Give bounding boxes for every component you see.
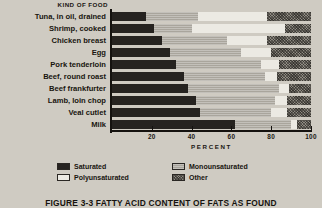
bar-segment-other <box>285 24 311 33</box>
bar-segment-other <box>267 12 311 21</box>
bar-row <box>112 83 311 95</box>
legend-swatch-other <box>172 174 185 181</box>
legend-swatch-monounsaturated <box>172 163 185 170</box>
x-axis-tick <box>152 126 153 132</box>
x-axis-tick <box>271 126 272 132</box>
bar-row <box>112 23 311 35</box>
bar-segment-sat <box>112 36 162 45</box>
x-axis-tick-label: 100 <box>305 133 317 140</box>
x-axis-tick-label: 60 <box>228 133 236 140</box>
bar-segment-poly <box>271 108 287 117</box>
bar-segment-mono <box>184 72 266 81</box>
legend-swatch-saturated <box>57 163 70 170</box>
legend-label: Polyunsaturated <box>74 174 129 181</box>
legend-label: Monounsaturated <box>189 163 248 170</box>
bar-segment-sat <box>112 108 200 117</box>
bar-group <box>112 11 311 131</box>
category-label: Tuna, in oil, drained <box>0 11 106 23</box>
plot-area <box>112 11 311 131</box>
bar-segment-sat <box>112 120 235 129</box>
bar-row <box>112 71 311 83</box>
category-label: Beef frankfurter <box>0 83 106 95</box>
bar-segment-poly <box>192 24 286 33</box>
bar-segment-sat <box>112 96 196 105</box>
legend-item-polyunsaturated: Polyunsaturated <box>57 174 172 181</box>
legend: SaturatedMonounsaturatedPolyunsaturatedO… <box>57 161 287 183</box>
legend-label: Saturated <box>74 163 106 170</box>
bar-segment-mono <box>235 120 291 129</box>
bar-segment-other <box>277 72 311 81</box>
legend-item-monounsaturated: Monounsaturated <box>172 163 287 170</box>
bar-row <box>112 107 311 119</box>
category-label: Egg <box>0 47 106 59</box>
x-axis-title: PERCENT <box>112 143 311 150</box>
bar-segment-other <box>287 96 311 105</box>
category-label: Lamb, loin chop <box>0 95 106 107</box>
x-axis-tick <box>231 126 232 132</box>
bar-segment-sat <box>112 12 146 21</box>
category-label: Pork tenderloin <box>0 59 106 71</box>
bar-segment-other <box>297 120 311 129</box>
bar-segment-sat <box>112 60 176 69</box>
legend-row: SaturatedMonounsaturated <box>57 161 287 172</box>
bar-segment-other <box>289 84 311 93</box>
bar-segment-mono <box>170 48 242 57</box>
bar-segment-sat <box>112 48 170 57</box>
bar-segment-poly <box>261 60 279 69</box>
bar-row <box>112 11 311 23</box>
bar-segment-sat <box>112 24 154 33</box>
bar-segment-mono <box>196 96 276 105</box>
bar-row <box>112 95 311 107</box>
bar-segment-mono <box>188 84 280 93</box>
legend-item-other: Other <box>172 174 287 181</box>
bar-segment-mono <box>162 36 228 45</box>
bar-segment-mono <box>154 24 192 33</box>
bar-segment-mono <box>176 60 262 69</box>
x-axis-tick <box>311 126 312 132</box>
bar-segment-poly <box>241 48 271 57</box>
x-axis-tick-label: 40 <box>188 133 196 140</box>
category-label: Veal cutlet <box>0 107 106 119</box>
category-labels: Tuna, in oil, drainedShrimp, cookedChick… <box>0 11 106 131</box>
figure-caption: FIGURE 3-3 FATTY ACID CONTENT OF FATS AS… <box>0 198 322 208</box>
legend-row: PolyunsaturatedOther <box>57 172 287 183</box>
x-axis-tick-label: 20 <box>148 133 156 140</box>
category-label: Chicken breast <box>0 35 106 47</box>
bar-segment-poly <box>198 12 268 21</box>
bar-segment-other <box>267 36 311 45</box>
category-label: Beef, round roast <box>0 71 106 83</box>
bar-segment-mono <box>200 108 272 117</box>
bar-segment-other <box>287 108 311 117</box>
x-axis-tick-label: 80 <box>267 133 275 140</box>
bar-row <box>112 35 311 47</box>
bar-segment-other <box>271 48 311 57</box>
bar-segment-mono <box>146 12 198 21</box>
bar-segment-sat <box>112 72 184 81</box>
bar-segment-poly <box>265 72 277 81</box>
legend-item-saturated: Saturated <box>57 163 172 170</box>
bar-segment-poly <box>279 84 289 93</box>
bar-segment-poly <box>227 36 267 45</box>
figure-fatty-acid-content: KIND OF FOOD Tuna, in oil, drainedShrimp… <box>0 0 322 208</box>
x-axis-tick <box>192 126 193 132</box>
bar-segment-sat <box>112 84 188 93</box>
bar-segment-poly <box>275 96 287 105</box>
legend-label: Other <box>189 174 208 181</box>
category-label: Shrimp, cooked <box>0 23 106 35</box>
bar-segment-other <box>279 60 311 69</box>
kind-of-food-header: KIND OF FOOD <box>0 1 108 8</box>
bar-row <box>112 47 311 59</box>
bar-row <box>112 119 311 131</box>
bar-row <box>112 59 311 71</box>
legend-swatch-polyunsaturated <box>57 174 70 181</box>
category-label: Milk <box>0 119 106 131</box>
